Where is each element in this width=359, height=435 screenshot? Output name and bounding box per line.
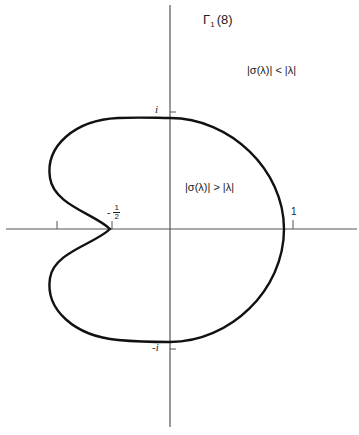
title-argument: (8) xyxy=(217,12,233,27)
fraction-denominator: 2 xyxy=(114,213,118,221)
diagram-canvas xyxy=(0,0,359,435)
region-outside-label: |σ(λ)| < |λ| xyxy=(247,64,296,76)
title-subscript: 1 xyxy=(210,20,214,29)
gamma-curve xyxy=(49,118,284,342)
fraction: 1 2 xyxy=(113,204,119,221)
region-inside-label: |σ(λ)| > |λ| xyxy=(185,181,234,193)
axis-label-one: 1 xyxy=(291,206,297,217)
axis-label-i: i xyxy=(155,103,158,115)
axis-label-minus-half: - 1 2 xyxy=(107,204,120,221)
minus-sign: - xyxy=(107,207,110,218)
figure-title: Γ1(8) xyxy=(203,12,233,29)
axis-label-minus-i: -i xyxy=(152,341,159,353)
